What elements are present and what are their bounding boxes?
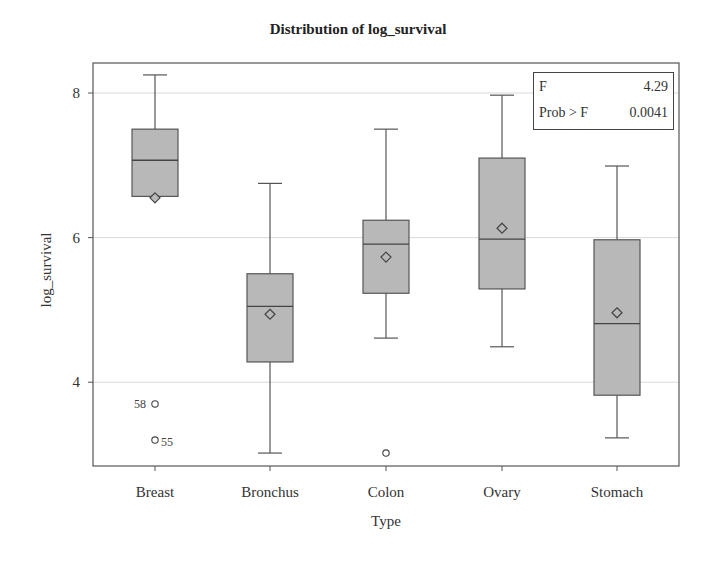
outlier-point: [383, 450, 389, 456]
outlier-point: [152, 437, 158, 443]
y-tick-label: 8: [66, 85, 80, 102]
x-tick-label: Breast: [136, 484, 174, 501]
inset-f-value: 4.29: [644, 75, 669, 99]
inset-prob-label: Prob > F: [539, 101, 588, 125]
outlier-label: 55: [161, 435, 173, 450]
inset-f-label: F: [539, 75, 547, 99]
x-tick-label: Stomach: [591, 484, 644, 501]
anova-inset: F 4.29 Prob > F 0.0041: [533, 72, 674, 130]
x-tick-label: Bronchus: [241, 484, 299, 501]
outlier-label: 58: [134, 397, 146, 412]
x-tick-label: Ovary: [483, 484, 521, 501]
inset-row-f: F 4.29: [534, 73, 673, 99]
inset-row-prob: Prob > F 0.0041: [534, 99, 673, 125]
x-tick-label: Colon: [368, 484, 405, 501]
inset-prob-value: 0.0041: [630, 101, 669, 125]
y-tick-label: 6: [66, 229, 80, 246]
box-iqr: [132, 129, 178, 196]
y-tick-label: 4: [66, 374, 80, 391]
outlier-point: [152, 401, 158, 407]
